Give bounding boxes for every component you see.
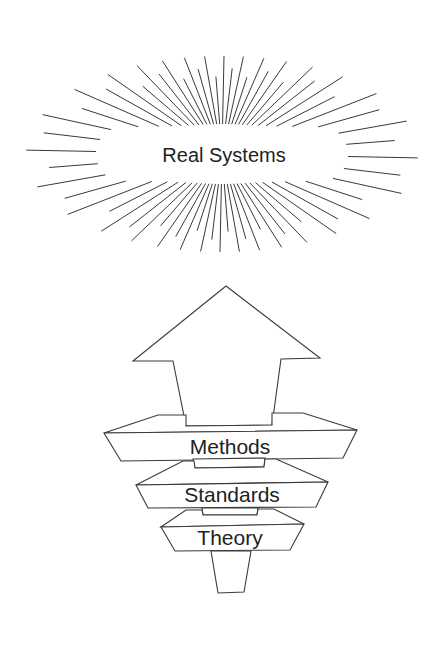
burst-ray	[223, 56, 224, 124]
burst-ray	[44, 133, 100, 140]
burst-ray	[220, 184, 221, 252]
foundation-stem	[211, 551, 251, 593]
burst-ray	[348, 157, 418, 158]
burst-ray	[26, 150, 96, 151]
methods-label: Methods	[190, 435, 271, 458]
burst-ray	[82, 108, 138, 126]
burst-ray	[198, 69, 214, 124]
burst-ray	[258, 81, 315, 126]
connector-methods-standards	[193, 458, 265, 468]
burst-ray	[226, 68, 233, 124]
burst-ray	[333, 178, 401, 193]
burst-ray	[241, 183, 282, 247]
burst-ray	[162, 61, 203, 125]
burst-ray	[129, 183, 186, 228]
burst-ray	[344, 169, 400, 176]
real-systems-label: Real Systems	[162, 144, 285, 166]
diagram-canvas: Real Systems Methods Standards Theory	[0, 0, 443, 645]
burst-ray	[346, 141, 395, 145]
connector-standards-theory	[202, 508, 258, 515]
burst-ray	[143, 86, 189, 125]
burst-ray	[212, 184, 219, 240]
burst-ray	[137, 66, 194, 125]
burst-ray	[216, 77, 220, 125]
burst-ray	[339, 121, 407, 133]
burst-ray	[68, 182, 152, 215]
burst-ray	[292, 94, 376, 127]
burst-ray	[306, 181, 362, 199]
burst-ray	[37, 175, 105, 187]
burst-ray	[250, 183, 307, 242]
burst-ray	[49, 164, 98, 168]
burst-ray	[224, 184, 228, 232]
burst-ray	[256, 183, 302, 222]
layer-theory: Theory	[161, 509, 304, 551]
standards-label: Standards	[184, 483, 280, 506]
burst-ray	[230, 184, 246, 239]
burst-ray	[43, 115, 111, 130]
burst-ray	[252, 67, 313, 125]
up-arrow-icon	[133, 286, 320, 426]
burst-ray	[201, 184, 216, 252]
burst-ray	[229, 57, 244, 125]
theory-label: Theory	[197, 526, 263, 549]
burst-ray	[132, 183, 193, 241]
